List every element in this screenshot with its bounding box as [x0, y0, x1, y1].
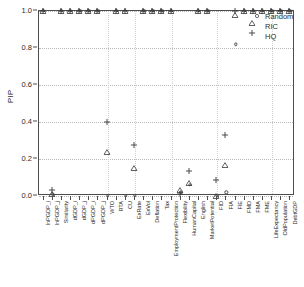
x-tick-mark-1	[52, 196, 53, 200]
x-tick-mark-4	[79, 196, 80, 200]
legend-item-random: Random	[252, 11, 304, 21]
data-point-random-20	[225, 191, 228, 194]
y-tick-mark-1	[33, 158, 37, 159]
x-tick-label-0: lnPGDP_i	[45, 201, 51, 225]
x-tick-mark-17	[198, 196, 199, 200]
y-tick-label-0: 0.0	[22, 191, 32, 200]
y-tick-label-5: 1.0	[22, 6, 32, 15]
y-tick-mark-3	[33, 84, 37, 85]
x-tick-label-13: Tax	[164, 201, 170, 210]
gridline-y-2	[39, 122, 293, 123]
x-tick-mark-15	[180, 196, 181, 200]
x-tick-label-5: dPGDP_i	[90, 201, 96, 224]
data-point-ric-20	[222, 162, 231, 168]
y-tick-label-4: 0.8	[22, 43, 32, 52]
x-tick-mark-14	[171, 196, 172, 200]
x-tick-label-23: FMA	[255, 201, 261, 213]
legend-item-hq: HQ	[252, 31, 304, 41]
x-tick-mark-10	[134, 196, 135, 200]
gridline-y-1	[39, 159, 293, 160]
x-tick-label-27: DebtGDP	[292, 201, 298, 225]
gridline-x-2	[172, 11, 173, 194]
chart-legend: RandomRICHQ	[252, 11, 304, 41]
x-tick-label-3: dGDP_i	[72, 201, 78, 220]
y-tick-label-2: 0.4	[22, 117, 32, 126]
x-tick-label-6: dPGDP_j	[100, 201, 106, 224]
gridline-x-3	[217, 11, 218, 194]
legend-label-hq: HQ	[265, 32, 276, 41]
gridline-y-0	[39, 196, 293, 197]
x-tick-mark-12	[152, 196, 153, 200]
x-tick-label-24: FME	[264, 201, 270, 213]
data-point-hq-20	[222, 131, 231, 138]
x-tick-label-7: WTO	[109, 201, 115, 214]
x-tick-label-10: ExRate	[136, 201, 142, 219]
data-point-ric-16	[185, 180, 194, 186]
x-tick-label-11: ExVol	[145, 201, 151, 215]
legend-marker-plus-icon	[252, 31, 262, 41]
x-tick-mark-16	[189, 196, 190, 200]
x-tick-label-16: HumanCapital	[191, 201, 197, 236]
data-point-random-16	[188, 183, 191, 186]
x-tick-mark-25	[271, 196, 272, 200]
y-axis: 0.00.20.40.60.81.0	[0, 0, 32, 287]
x-tick-mark-27	[289, 196, 290, 200]
y-tick-label-3: 0.6	[22, 80, 32, 89]
x-tick-label-1: lnPGDP_j	[54, 201, 60, 225]
x-tick-mark-5	[88, 196, 89, 200]
x-tick-label-21: FIE	[237, 201, 243, 210]
data-point-hq-16	[185, 168, 194, 175]
x-tick-mark-11	[143, 196, 144, 200]
x-tick-label-20: FIA	[228, 201, 234, 210]
x-tick-mark-8	[116, 196, 117, 200]
x-tick-label-4: dGDP_j	[81, 201, 87, 220]
x-tick-label-8: RTA	[118, 201, 124, 212]
x-tick-mark-22	[244, 196, 245, 200]
x-tick-mark-9	[125, 196, 126, 200]
x-tick-mark-3	[70, 196, 71, 200]
x-tick-mark-0	[43, 196, 44, 200]
x-tick-label-12: Deflation	[154, 201, 160, 223]
x-tick-label-15: Flexibility	[182, 201, 188, 223]
legend-label-random: Random	[265, 12, 293, 21]
x-tick-label-14: EmploymentProtection	[173, 201, 179, 256]
data-point-ric-21	[231, 12, 240, 18]
x-tick-label-2: Similarity	[63, 201, 69, 223]
y-axis-title: PIP	[6, 77, 15, 117]
y-tick-mark-0	[33, 195, 37, 196]
x-tick-mark-21	[235, 196, 236, 200]
x-tick-mark-6	[97, 196, 98, 200]
x-tick-label-17: English	[200, 201, 206, 219]
x-tick-mark-20	[225, 196, 226, 200]
x-tick-mark-19	[216, 196, 217, 200]
data-point-random-15	[179, 191, 182, 194]
x-tick-label-22: FMD	[246, 201, 252, 213]
x-tick-mark-2	[61, 196, 62, 200]
x-tick-label-9: CU	[127, 201, 133, 209]
y-tick-mark-2	[33, 121, 37, 122]
x-tick-label-19: FID	[218, 201, 224, 210]
x-tick-mark-13	[161, 196, 162, 200]
data-point-hq-1	[48, 187, 57, 194]
marker-random	[255, 14, 258, 17]
y-tick-mark-4	[33, 47, 37, 48]
legend-marker-circle-icon	[252, 11, 262, 21]
x-tick-label-26: OldPopulation	[282, 201, 288, 236]
y-tick-mark-5	[33, 10, 37, 11]
x-tick-mark-24	[262, 196, 263, 200]
gridline-y-4	[39, 48, 293, 49]
data-point-random-21	[234, 43, 237, 46]
legend-marker-triangle-icon	[252, 21, 262, 31]
x-tick-mark-23	[253, 196, 254, 200]
y-tick-label-1: 0.2	[22, 154, 32, 163]
gridline-x-0	[108, 11, 109, 194]
x-tick-label-18: MarketPotential	[209, 201, 215, 239]
legend-label-ric: RIC	[265, 22, 278, 31]
x-tick-mark-7	[107, 196, 108, 200]
x-tick-label-25: LifeExpectancy	[273, 201, 279, 238]
data-point-ric-15	[176, 187, 185, 193]
legend-item-ric: RIC	[252, 21, 304, 31]
gridline-y-3	[39, 85, 293, 86]
x-tick-mark-26	[280, 196, 281, 200]
chart-container: 0.00.20.40.60.81.0 PIP lnPGDP_ilnPGDP_jS…	[0, 0, 304, 287]
